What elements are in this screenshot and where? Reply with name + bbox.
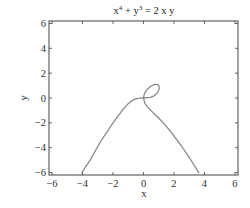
x-tick-label: −6 (46, 178, 57, 189)
y-tick-label: −4 (35, 142, 47, 153)
x-tick-label: 2 (171, 178, 176, 189)
y-tick-label: 2 (41, 68, 46, 79)
chart: x4 + y3 = 2 x y −6−4−20246 −6−4−20246 x … (0, 0, 250, 208)
y-tick-labels: −6−4−20246 (35, 18, 47, 178)
y-tick-label: 4 (41, 43, 47, 54)
y-tick-label: −6 (35, 167, 46, 178)
x-tick-label: −2 (107, 178, 118, 189)
x-axis-label: x (141, 187, 147, 199)
x-tick-label: 6 (232, 178, 237, 189)
y-tick-label: 6 (41, 18, 46, 29)
x-tick-label: −4 (77, 178, 89, 189)
x-tick-label: 4 (202, 178, 208, 189)
y-axis-label: y (17, 95, 29, 101)
y-tick-label: −2 (35, 117, 46, 128)
y-tick-label: 0 (41, 93, 46, 104)
chart-title: x4 + y3 = 2 x y (114, 4, 176, 16)
